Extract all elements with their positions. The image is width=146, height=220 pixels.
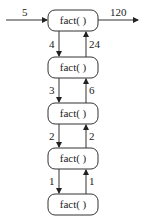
call-box-2: fact( ) — [48, 57, 98, 78]
return-value-label: 2 — [89, 130, 95, 142]
call-arg-label: 2 — [49, 130, 55, 142]
input-arrow: 5 — [6, 6, 47, 20]
return-arrow-3: 2 — [86, 125, 95, 148]
call-arrow-3: 2 — [49, 124, 59, 147]
call-arrow-4: 1 — [49, 169, 59, 193]
return-arrow-1: 24 — [86, 32, 101, 57]
call-box-label: fact( ) — [60, 61, 87, 74]
return-arrow-2: 6 — [86, 79, 95, 103]
call-box-label: fact( ) — [60, 107, 87, 120]
input-label: 5 — [22, 6, 28, 18]
call-box-label: fact( ) — [60, 152, 87, 165]
return-value-label: 1 — [89, 175, 95, 187]
output-arrow: 120 — [98, 6, 138, 20]
return-arrow-4: 1 — [86, 170, 95, 194]
call-box-5: fact( ) — [48, 194, 98, 215]
call-box-3: fact( ) — [48, 103, 98, 124]
call-box-label: fact( ) — [60, 14, 87, 27]
call-arg-label: 4 — [49, 38, 55, 50]
call-box-1: fact( ) — [48, 10, 98, 31]
call-arrow-2: 3 — [49, 78, 59, 102]
call-box-4: fact( ) — [48, 148, 98, 169]
output-label: 120 — [110, 6, 127, 18]
call-arrow-1: 4 — [49, 31, 59, 56]
return-value-label: 24 — [89, 38, 101, 50]
call-arg-label: 3 — [49, 84, 55, 96]
call-arg-label: 1 — [49, 175, 55, 187]
return-value-label: 6 — [89, 84, 95, 96]
call-box-label: fact( ) — [60, 198, 87, 211]
recursion-diagram: 5 120 fact( ) fact( ) fact( ) fact( ) fa… — [0, 0, 146, 220]
